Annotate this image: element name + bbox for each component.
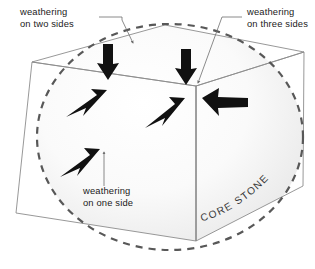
label-one-side-line1: weathering	[82, 185, 130, 196]
annotation-one-side: weathering on one side	[82, 185, 133, 208]
annotation-three-sides: weathering on three sides	[246, 6, 308, 29]
core-stone-shading	[37, 24, 303, 250]
label-two-sides-line1: weathering	[19, 6, 67, 17]
label-three-sides-line1: weathering	[246, 6, 294, 17]
label-two-sides-line2: on two sides	[20, 18, 74, 29]
weathering-core-stone-diagram: weathering on two sides weathering on th…	[0, 0, 315, 269]
label-one-side-line2: on one side	[83, 197, 133, 208]
annotation-two-sides: weathering on two sides	[19, 6, 74, 29]
label-three-sides-line2: on three sides	[247, 18, 308, 29]
diagram-canvas: weathering on two sides weathering on th…	[0, 0, 315, 269]
